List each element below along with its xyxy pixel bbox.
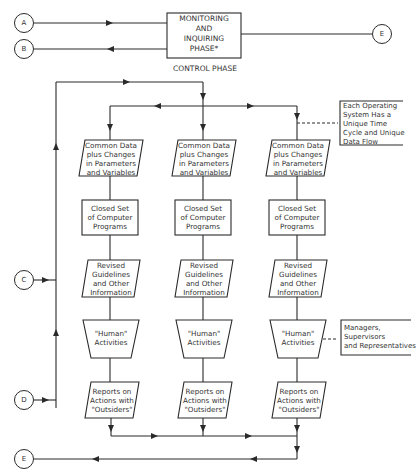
note-operating-system: Each Operating System Has a Unique Time … [343, 102, 409, 147]
col1-reports: Reports on Actions with "Outsiders" [85, 387, 139, 414]
connector-e-bottom-label: E [22, 455, 26, 463]
col3-revised-guidelines: Revised Guidelines and Other Information [269, 261, 327, 297]
col3-human-activities: "Human" Activities [270, 329, 326, 347]
flowchart-canvas: A B E C D E MONITORING AND INQUIRING PHA… [0, 0, 420, 475]
connector-d: D [14, 390, 34, 410]
col1-common-data: Common Data plus Changes in Parameters a… [80, 141, 142, 177]
connector-b-label: B [22, 45, 27, 53]
connector-e-bottom: E [14, 449, 34, 469]
monitoring-phase-box: MONITORING AND INQUIRING PHASE* [167, 14, 241, 54]
col3-computer-programs: Closed Set of Computer Programs [269, 204, 325, 231]
connector-e-top: E [372, 24, 392, 44]
col1-revised-guidelines: Revised Guidelines and Other Information [82, 261, 140, 297]
control-phase-title: CONTROL PHASE [160, 64, 250, 74]
col1-computer-programs: Closed Set of Computer Programs [82, 204, 138, 231]
col3-reports: Reports on Actions with "Outsiders" [272, 387, 326, 414]
connector-c: C [14, 270, 34, 290]
connector-a: A [14, 13, 34, 33]
connector-c-label: C [22, 276, 27, 284]
col2-common-data: Common Data plus Changes in Parameters a… [173, 141, 235, 177]
col2-human-activities: "Human" Activities [176, 329, 232, 347]
note-managers: Managers, Supervisors and Representative… [344, 324, 420, 351]
col3-common-data: Common Data plus Changes in Parameters a… [267, 141, 329, 177]
connector-a-label: A [22, 19, 27, 27]
connector-d-label: D [21, 396, 26, 404]
col2-reports: Reports on Actions with "Outsiders" [178, 387, 232, 414]
col2-revised-guidelines: Revised Guidelines and Other Information [175, 261, 233, 297]
connector-e-top-label: E [380, 30, 384, 38]
col1-human-activities: "Human" Activities [83, 329, 139, 347]
col2-computer-programs: Closed Set of Computer Programs [175, 204, 231, 231]
connector-b: B [14, 39, 34, 59]
